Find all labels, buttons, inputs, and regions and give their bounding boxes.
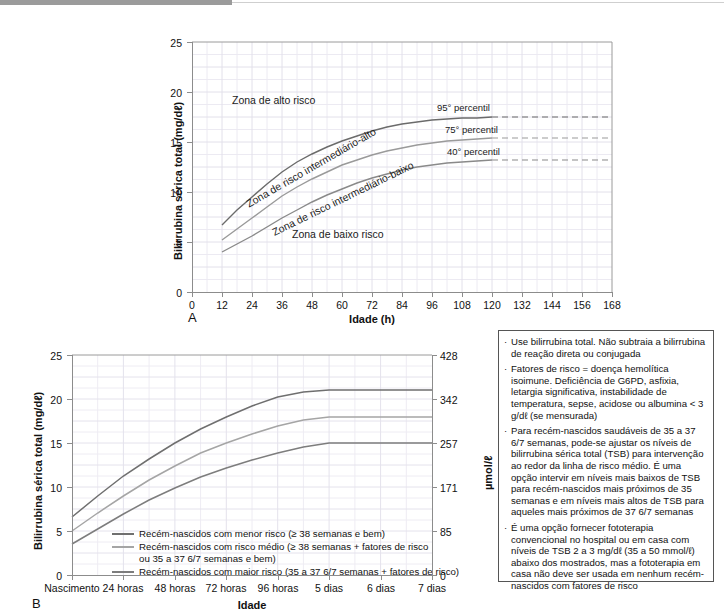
panel-b-y-right-label-342: 342	[440, 394, 470, 406]
panel-b-chart: Bilirrubina sérica total (mg/dℓ) 0 5 10 …	[0, 325, 500, 616]
panel-b-ytick-5	[67, 531, 72, 532]
panel-a-ytick-20	[187, 92, 192, 93]
panel-a-y-tick-10: 10	[160, 187, 182, 199]
legend-label-menor-risco: Recém-nascidos com menor risco (≥ 38 sem…	[139, 528, 385, 540]
panel-b-ytick-25	[67, 355, 72, 356]
panel-a-y-tick-5: 5	[160, 237, 182, 249]
panel-a-plot-area: Zona de alto risco Zona de risco interme…	[192, 42, 612, 292]
legend-label-risco-medio: Recém-nascidos com risco médio (≥ 38 sem…	[139, 541, 428, 553]
panel-b-plot-area: Recém-nascidos com menor risco (≥ 38 sem…	[72, 355, 432, 575]
panel-a-xtick-24	[252, 292, 253, 297]
panel-b-ytick-20	[67, 399, 72, 400]
legend-label-risco-medio-cont: ou 35 a 37 6/7 semanas e bem)	[139, 553, 459, 565]
note-bullet-2: ·	[504, 363, 511, 421]
panel-a-x-tick-label-48: 48	[297, 299, 327, 311]
panel-b-xtick-6	[381, 575, 382, 580]
panel-b-y-tick-10: 10	[40, 482, 62, 494]
panel-a-xtick-36	[282, 292, 283, 297]
panel-a-ytick-25	[187, 42, 192, 43]
panel-b-ytick-right-257	[432, 443, 437, 444]
panel-a-ytick-10	[187, 192, 192, 193]
panel-b-y-axis-right-title: µmol/ℓ	[482, 456, 494, 490]
panel-b-y-tick-0: 0	[40, 570, 62, 582]
header-rule	[232, 2, 724, 3]
panel-b-ytick-right-85	[432, 531, 437, 532]
panel-b-y-axis-right-line	[432, 355, 433, 576]
panel-a-ytick-5	[187, 242, 192, 243]
panel-b-xtick-1	[123, 575, 124, 580]
panel-a-x-tick-label-84: 84	[387, 299, 417, 311]
panel-a-x-tick-label-120: 120	[477, 299, 507, 311]
panel-a-x-tick-label-156: 156	[567, 299, 597, 311]
panel-b-x-tick-label-7: 7 dias	[402, 582, 462, 594]
panel-a-ytick-0	[187, 292, 192, 293]
note-item-3: · Para recém-nascidos saudáveis de 35 a …	[504, 425, 707, 518]
panel-b-x-axis-line	[72, 575, 433, 576]
notes-box: · Use bilirrubina total. Não subtraia a …	[498, 330, 714, 582]
panel-b-y-axis-line	[72, 355, 73, 576]
panel-a-x-tick-label-60: 60	[327, 299, 357, 311]
legend-swatch-menor-risco	[112, 533, 134, 535]
panel-a-x-tick-label-96: 96	[417, 299, 447, 311]
panel-b-y-right-label-0: 0	[440, 570, 470, 582]
note-item-2: · Fatores de risco = doença hemolítica i…	[504, 363, 707, 421]
panel-b-ytick-right-171	[432, 487, 437, 488]
panel-b-y-tick-15: 15	[40, 438, 62, 450]
panel-b-y-right-label-257: 257	[440, 438, 470, 450]
note-text-3: Para recém-nascidos saudáveis de 35 a 37…	[511, 425, 707, 518]
panel-a-x-tick-label-132: 132	[507, 299, 537, 311]
panel-b-xtick-2	[175, 575, 176, 580]
panel-a-label-p75: 75° percentil	[445, 124, 498, 135]
panel-b-x-tick-label-5: 5 dias	[299, 582, 359, 594]
panel-b-y-tick-5: 5	[40, 526, 62, 538]
legend-row-risco-medio: Recém-nascidos com risco médio (≥ 38 sem…	[112, 541, 459, 553]
panel-b-ytick-right-428	[432, 355, 437, 356]
panel-b-xtick-5	[329, 575, 330, 580]
panel-a-x-tick-label-108: 108	[447, 299, 477, 311]
panel-b-ytick-10	[67, 487, 72, 488]
panel-a-y-tick-15: 15	[160, 137, 182, 149]
panel-a-xtick-48	[312, 292, 313, 297]
panel-a-x-tick-label-12: 12	[207, 299, 237, 311]
panel-b-legend: Recém-nascidos com menor risco (≥ 38 sem…	[112, 528, 459, 578]
panel-a-xtick-84	[402, 292, 403, 297]
panel-a-chart: Bilirrubina sérica total (mg/dℓ) 0 5 10 …	[0, 10, 724, 320]
panel-a-letter: A	[188, 310, 197, 325]
panel-a-x-tick-label-36: 36	[267, 299, 297, 311]
panel-b-xtick-7	[432, 575, 433, 580]
panel-a-x-axis-title: Idade (h)	[349, 313, 395, 325]
note-bullet-4: ·	[504, 522, 511, 592]
panel-a-label-p40: 40° percentil	[447, 146, 500, 157]
panel-a-y-tick-20: 20	[160, 87, 182, 99]
note-item-1: · Use bilirrubina total. Não subtraia a …	[504, 336, 707, 359]
panel-b-y-tick-20: 20	[40, 394, 62, 406]
panel-a-xtick-12	[222, 292, 223, 297]
panel-a-xtick-168	[612, 292, 613, 297]
panel-a-xtick-72	[372, 292, 373, 297]
panel-a-zone-alto-risco: Zona de alto risco	[232, 94, 315, 106]
note-text-2: Fatores de risco = doença hemolítica iso…	[511, 363, 707, 421]
panel-a-x-tick-label-168: 168	[597, 299, 627, 311]
panel-a-xtick-156	[582, 292, 583, 297]
panel-b-y-right-label-171: 171	[440, 482, 470, 494]
panel-b-x-tick-label-1: 24 horas	[93, 582, 153, 594]
panel-a-x-tick-label-24: 24	[237, 299, 267, 311]
panel-b-y-right-label-428: 428	[440, 350, 470, 362]
panel-a-y-axis-line	[192, 42, 193, 293]
panel-b-xtick-3	[226, 575, 227, 580]
note-bullet-1: ·	[504, 336, 511, 359]
panel-b-xtick-0	[72, 575, 73, 580]
panel-a-label-p95: 95° percentil	[437, 102, 490, 113]
legend-swatch-maior-risco	[112, 571, 134, 573]
panel-b-ytick-15	[67, 443, 72, 444]
legend-swatch-risco-medio	[112, 546, 134, 548]
legend-row-menor-risco: Recém-nascidos com menor risco (≥ 38 sem…	[112, 528, 459, 540]
note-bullet-3: ·	[504, 425, 511, 518]
panel-a-xtick-108	[462, 292, 463, 297]
panel-a-xtick-60	[342, 292, 343, 297]
panel-a-xtick-144	[552, 292, 553, 297]
note-text-4: É uma opção fornecer fototerapia convenc…	[511, 522, 707, 592]
panel-b-letter: B	[32, 596, 41, 611]
panel-b-ytick-right-342	[432, 399, 437, 400]
panel-a-ytick-15	[187, 142, 192, 143]
